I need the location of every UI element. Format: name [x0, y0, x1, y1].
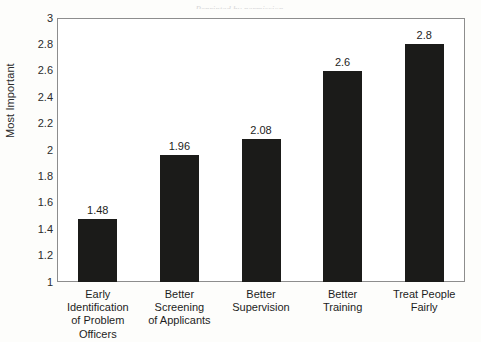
y-tick-label: 2.6 — [19, 65, 53, 76]
x-category-label: Better Screening of Applicants — [134, 288, 224, 328]
y-tick-label: 2.8 — [19, 39, 53, 50]
y-axis-tick-labels: 32.82.62.42.221.81.61.41.21 — [16, 0, 53, 342]
bar-value-label: 2.8 — [394, 29, 454, 41]
x-category-label: Better Supervision — [216, 288, 306, 314]
bar-value-label: 2.6 — [313, 56, 373, 68]
y-tick-label: 1.2 — [19, 250, 53, 261]
x-category-label: Better Training — [298, 288, 388, 314]
bar-chart-figure: Reprinted by permission. Most Important … — [0, 0, 481, 342]
bar-value-label: 1.48 — [68, 204, 128, 216]
y-tick-label: 1.6 — [19, 197, 53, 208]
y-tick-label: 1 — [19, 277, 53, 288]
y-tick-label: 2.2 — [19, 118, 53, 129]
bar — [78, 219, 117, 282]
source-note: Reprinted by permission. — [0, 0, 481, 9]
x-category-label: Early Identification of Problem Officers — [53, 288, 143, 341]
bars-layer — [57, 18, 465, 282]
y-tick-label: 2 — [19, 145, 53, 156]
bar — [405, 44, 444, 282]
x-category-label: Treat People Fairly — [379, 288, 469, 314]
y-tick-label: 1.8 — [19, 171, 53, 182]
bar-value-label: 2.08 — [231, 124, 291, 136]
source-note-text: Reprinted by permission. — [195, 5, 285, 9]
y-tick-label: 2.4 — [19, 92, 53, 103]
bar — [242, 139, 281, 282]
bar — [160, 155, 199, 282]
y-tick-label: 1.4 — [19, 224, 53, 235]
y-tick-label: 3 — [19, 13, 53, 24]
bar-value-label: 1.96 — [149, 140, 209, 152]
y-axis-title: Most Important — [4, 48, 16, 138]
bar — [323, 71, 362, 282]
